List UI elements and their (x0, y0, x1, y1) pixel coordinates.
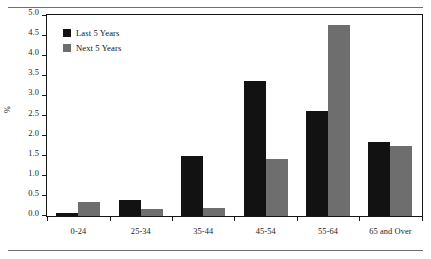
legend-item-last-5-years: Last 5 Years (63, 26, 121, 39)
bar-group-bars (234, 15, 296, 215)
legend-label: Last 5 Years (76, 28, 119, 38)
bar-last-5-years (368, 142, 390, 216)
bottom-rule (8, 250, 423, 251)
y-axis-tick-label: 5.0 (28, 8, 39, 17)
x-axis-tick-mark (359, 217, 360, 221)
y-axis-tick-label: 1.0 (28, 169, 39, 178)
bar-next-5-years (203, 208, 225, 216)
legend-label: Next 5 Years (76, 43, 121, 53)
y-axis-tick-label: 3.5 (28, 68, 39, 77)
bar-next-5-years (390, 146, 412, 215)
x-axis-tick-mark (47, 217, 48, 221)
bar-last-5-years (181, 156, 203, 216)
y-axis-tick-label: 0.5 (28, 189, 39, 198)
legend-swatch-icon (63, 29, 71, 37)
bar-next-5-years (78, 202, 100, 216)
y-axis-tick-label: 1.5 (28, 149, 39, 158)
legend-item-next-5-years: Next 5 Years (63, 41, 121, 54)
x-axis-tick-label: 35-44 (193, 227, 213, 236)
bar-group (297, 15, 359, 215)
x-axis-tick-label: 55-64 (318, 227, 338, 236)
y-axis: 0.00.51.01.52.02.53.03.54.04.55.0 (0, 14, 46, 217)
bar-chart-figure: % 0.00.51.01.52.02.53.03.54.04.55.0 0-24… (0, 0, 431, 259)
bar-group-bars (297, 15, 359, 215)
x-axis-tick-label: 65 and Over (369, 227, 412, 236)
x-axis-tick-mark (234, 217, 235, 221)
bar-group (359, 15, 421, 215)
bar-group-bars (172, 15, 234, 215)
x-axis: 0-2425-3435-4445-5455-6465 and Over (47, 217, 421, 247)
bar-group-bars (359, 15, 421, 215)
y-axis-tick-label: 2.0 (28, 129, 39, 138)
bar-next-5-years (266, 159, 288, 216)
bar-group (172, 15, 234, 215)
y-axis-tick-label: 0.0 (28, 209, 39, 218)
x-axis-tick-label: 25-34 (131, 227, 151, 236)
bar-last-5-years (244, 81, 266, 215)
bar-group (234, 15, 296, 215)
bar-last-5-years (306, 111, 328, 215)
x-axis-tick-label: 45-54 (256, 227, 276, 236)
x-axis-tick-mark (422, 217, 423, 221)
x-axis-tick-mark (110, 217, 111, 221)
bar-last-5-years (119, 200, 141, 215)
bar-next-5-years (141, 209, 163, 216)
x-axis-tick-mark (297, 217, 298, 221)
top-rule (8, 7, 423, 8)
bar-next-5-years (328, 25, 350, 215)
y-axis-tick-label: 2.5 (28, 109, 39, 118)
y-axis-tick-label: 4.0 (28, 48, 39, 57)
legend-swatch-icon (63, 44, 71, 52)
x-axis-tick-label: 0-24 (71, 227, 87, 236)
y-axis-tick-label: 4.5 (28, 28, 39, 37)
bar-last-5-years (56, 213, 78, 215)
y-axis-tick-label: 3.0 (28, 88, 39, 97)
chart-legend: Last 5 Years Next 5 Years (63, 26, 121, 56)
x-axis-tick-mark (172, 217, 173, 221)
